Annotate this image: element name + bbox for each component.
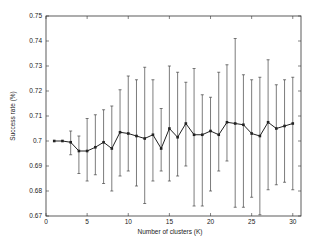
x-tick-label: 20 xyxy=(207,218,215,225)
data-point-marker xyxy=(267,121,270,124)
data-point-marker xyxy=(234,122,237,125)
y-tick-label: 0.75 xyxy=(29,12,42,19)
y-tick-label: 0.69 xyxy=(29,162,42,169)
x-tick-label: 10 xyxy=(125,218,133,225)
data-point-marker xyxy=(217,133,220,136)
data-point-marker xyxy=(250,132,253,135)
data-point-marker xyxy=(86,150,89,153)
data-point-marker xyxy=(291,122,294,125)
y-tick-label: 0.71 xyxy=(29,112,42,119)
x-axis-ticks: 051015202530 xyxy=(44,16,297,225)
data-point-marker xyxy=(143,137,146,140)
data-point-marker xyxy=(111,147,114,150)
data-point-marker xyxy=(193,133,196,136)
data-point-marker xyxy=(61,140,64,143)
x-tick-label: 30 xyxy=(289,218,297,225)
data-point-marker xyxy=(160,147,163,150)
data-point-marker xyxy=(119,131,122,134)
x-tick-label: 0 xyxy=(44,218,48,225)
success-rate-line xyxy=(54,122,293,151)
data-point-marker xyxy=(53,140,56,143)
data-point-marker xyxy=(69,141,72,144)
data-point-marker xyxy=(185,122,188,125)
data-point-marker xyxy=(275,127,278,130)
y-tick-label: 0.72 xyxy=(29,87,42,94)
data-point-marker xyxy=(209,130,212,133)
y-tick-label: 0.67 xyxy=(29,212,42,219)
y-tick-label: 0.73 xyxy=(29,62,42,69)
success-rate-chart: 0.670.680.690.70.710.720.730.740.75 0510… xyxy=(0,0,313,243)
data-point-marker xyxy=(78,150,81,153)
y-axis-ticks: 0.670.680.690.70.710.720.730.740.75 xyxy=(29,12,301,219)
data-point-marker xyxy=(94,146,97,149)
series-line xyxy=(53,121,294,152)
data-point-marker xyxy=(242,123,245,126)
data-point-marker xyxy=(176,136,179,139)
y-tick-label: 0.74 xyxy=(29,37,42,44)
y-tick-label: 0.68 xyxy=(29,187,42,194)
plot-frame xyxy=(46,16,301,216)
x-tick-label: 25 xyxy=(248,218,256,225)
data-point-marker xyxy=(102,141,105,144)
error-bars xyxy=(69,39,294,215)
x-axis-label: Number of clusters (K) xyxy=(137,228,202,236)
data-point-marker xyxy=(135,135,138,138)
y-tick-label: 0.7 xyxy=(33,137,42,144)
y-axis-label: Success rate (%) xyxy=(9,91,17,141)
data-point-marker xyxy=(259,135,262,138)
x-tick-label: 5 xyxy=(85,218,89,225)
data-point-marker xyxy=(168,127,171,130)
data-point-marker xyxy=(127,132,130,135)
data-point-marker xyxy=(152,133,155,136)
plot-border xyxy=(46,16,301,216)
data-point-marker xyxy=(283,125,286,128)
x-tick-label: 15 xyxy=(166,218,174,225)
data-point-marker xyxy=(201,133,204,136)
data-point-marker xyxy=(226,121,229,124)
